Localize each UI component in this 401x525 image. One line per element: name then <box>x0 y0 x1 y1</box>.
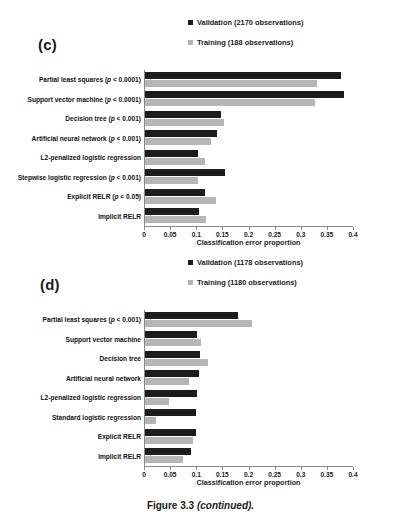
bar-validation <box>145 409 196 416</box>
bar-group-row: Support vector machine (p < 0.0001) <box>145 90 353 110</box>
bar-group-row: Partial least squares (p < 0.0001) <box>145 70 353 90</box>
legend-label-training: Training (1180 observations) <box>197 278 297 287</box>
bar-training <box>145 339 201 346</box>
validation-swatch-icon <box>188 260 193 265</box>
bar-validation <box>145 351 200 358</box>
bar-validation <box>145 429 196 436</box>
bar-training <box>145 437 193 444</box>
axis-tick-label: 0.25 <box>268 231 281 238</box>
category-label: Decision tree (p < 0.001) <box>3 109 145 129</box>
bar-rows-c: Partial least squares (p < 0.0001)Suppor… <box>144 70 353 226</box>
plot-area-d: Partial least squares (p < 0.001)Support… <box>0 310 401 483</box>
category-label: L2-penalized logistic regression <box>3 148 145 168</box>
axis-tick <box>144 227 145 230</box>
axis-tick-label: 0.15 <box>216 471 229 478</box>
bar-validation <box>145 189 205 196</box>
bar-validation <box>145 150 198 157</box>
bar-group-row: L2-penalized logistic regression <box>145 148 353 168</box>
category-label: Artificial neural network <box>3 369 145 389</box>
axis-tick <box>222 227 223 230</box>
plot-area-c: Partial least squares (p < 0.0001)Suppor… <box>0 70 401 243</box>
bar-training <box>145 99 315 106</box>
bar-training <box>145 119 224 126</box>
category-label: Support vector machine <box>3 330 145 350</box>
category-label: Implicit RELR <box>3 207 145 227</box>
bar-group-row: Artificial neural network (p < 0.001) <box>145 129 353 149</box>
axis-tick <box>301 227 302 230</box>
axis-tick-label: 0.3 <box>296 231 305 238</box>
bar-validation <box>145 448 191 455</box>
bar-validation <box>145 208 199 215</box>
bar-group-row: Decision tree (p < 0.001) <box>145 109 353 129</box>
axis-tick <box>196 467 197 470</box>
bar-training <box>145 378 189 385</box>
bar-group-row: Implicit RELR <box>145 447 353 467</box>
chart-panel-c: (c) Validation (2170 observations) Train… <box>0 0 401 262</box>
axis-tick-label: 0.3 <box>296 471 305 478</box>
figure-caption-continued: (continued). <box>197 500 254 511</box>
bar-training <box>145 359 208 366</box>
bar-training <box>145 456 183 463</box>
axis-tick-label: 0.4 <box>348 471 357 478</box>
training-swatch-icon <box>188 280 193 285</box>
axis-tick-label: 0.2 <box>244 471 253 478</box>
bar-validation <box>145 91 344 98</box>
axis-tick <box>275 467 276 470</box>
legend-item-training: Training (1180 observations) <box>188 272 393 292</box>
bar-training <box>145 158 205 165</box>
bar-validation <box>145 130 217 137</box>
axis-tick <box>222 467 223 470</box>
bar-group-row: Explicit RELR <box>145 427 353 447</box>
axis-tick-label: 0.4 <box>348 231 357 238</box>
bar-training <box>145 417 156 424</box>
bar-training <box>145 398 169 405</box>
figure-caption: Figure 3.3 (continued). <box>0 500 401 511</box>
panel-label-d: (d) <box>40 276 60 293</box>
axis-tick <box>327 227 328 230</box>
bar-validation <box>145 370 199 377</box>
category-label: Stepwise logistic regression (p < 0.001) <box>3 168 145 188</box>
axis-tick <box>170 467 171 470</box>
axis-tick <box>353 467 354 470</box>
axis-tick <box>249 467 250 470</box>
bar-training <box>145 177 198 184</box>
axis-tick-label: 0.05 <box>164 231 177 238</box>
bar-validation <box>145 169 225 176</box>
legend-panel-c: Validation (2170 observations) Training … <box>188 12 393 52</box>
category-label: Decision tree <box>3 349 145 369</box>
axis-tick <box>249 227 250 230</box>
axis-tick-label: 0 <box>142 471 146 478</box>
bar-group-row: Support vector machine <box>145 330 353 350</box>
axis-tick-label: 0.15 <box>216 231 229 238</box>
category-label: Explicit RELR <box>3 427 145 447</box>
axis-tick <box>196 227 197 230</box>
legend-item-validation: Validation (2170 observations) <box>188 12 393 32</box>
bar-group-row: Artificial neural network <box>145 369 353 389</box>
legend-panel-d: Validation (1178 observations) Training … <box>188 252 393 292</box>
bar-validation <box>145 331 197 338</box>
category-label: L2-penalized logistic regression <box>3 388 145 408</box>
legend-item-validation: Validation (1178 observations) <box>188 252 393 272</box>
bar-rows-d: Partial least squares (p < 0.001)Support… <box>144 310 353 466</box>
bar-group-row: Explicit RELR (p < 0.05) <box>145 187 353 207</box>
bar-group-row: Standard logistic regression <box>145 408 353 428</box>
axis-tick-label: 0.25 <box>268 471 281 478</box>
axis-tick-label: 0.35 <box>320 231 333 238</box>
bar-group-row: Stepwise logistic regression (p < 0.001) <box>145 168 353 188</box>
validation-swatch-icon <box>188 20 193 25</box>
category-label: Artificial neural network (p < 0.001) <box>3 129 145 149</box>
bar-group-row: L2-penalized logistic regression <box>145 388 353 408</box>
bar-validation <box>145 312 238 319</box>
category-label: Standard logistic regression <box>3 408 145 428</box>
panel-label-c: (c) <box>38 36 57 53</box>
bar-training <box>145 320 252 327</box>
bar-validation <box>145 72 341 79</box>
bar-group-row: Partial least squares (p < 0.001) <box>145 310 353 330</box>
axis-tick-label: 0.2 <box>244 231 253 238</box>
bar-validation <box>145 390 197 397</box>
axis-tick-label: 0.35 <box>320 471 333 478</box>
axis-tick <box>301 467 302 470</box>
legend-item-training: Training (188 observations) <box>188 32 393 52</box>
training-swatch-icon <box>188 40 193 45</box>
axis-tick <box>170 227 171 230</box>
